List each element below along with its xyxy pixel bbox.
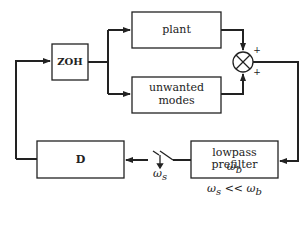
unwanted-label-line1: unwanted — [132, 82, 221, 94]
wire-d-to-zoh — [16, 61, 50, 159]
sampler-switch-icon — [153, 151, 173, 168]
switch-omega-s-label: ωs — [150, 168, 170, 183]
prefilter-label-omega-b: ωb — [191, 161, 278, 176]
frequency-condition-label: ωs << ωb — [191, 183, 278, 198]
plant-label: plant — [132, 24, 221, 36]
sum-sign-top: + — [252, 44, 262, 56]
wire-unwanted-to-sum — [221, 74, 243, 94]
wire-plant-to-sum — [221, 30, 243, 50]
summing-junction-icon — [233, 52, 253, 72]
zoh-label: ZOH — [52, 56, 88, 68]
sum-sign-bottom: + — [252, 66, 262, 78]
controller-d-label: D — [37, 154, 124, 166]
unwanted-label-line2: modes — [132, 95, 221, 107]
